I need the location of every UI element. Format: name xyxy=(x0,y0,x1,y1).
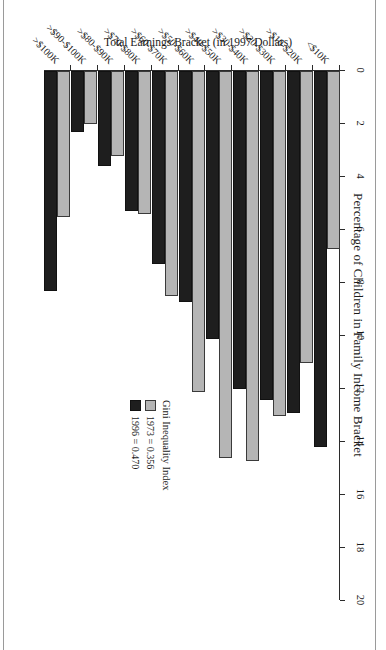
y-axis-tick xyxy=(70,65,71,70)
bar xyxy=(287,71,300,413)
legend-label: 1973 = 0.356 xyxy=(145,416,156,469)
bar-group xyxy=(287,71,313,601)
x-axis-tick-label: 2 xyxy=(355,120,366,125)
x-axis-tick-label: 18 xyxy=(355,542,366,553)
bar xyxy=(273,71,286,416)
bar xyxy=(260,71,273,400)
x-axis-tick-label: 4 xyxy=(355,173,366,178)
plot-area: 02468101214161820<$10K>$10-$20K>$20-$30K… xyxy=(44,70,340,600)
x-axis-tick xyxy=(340,335,345,336)
x-axis-tick-label: 8 xyxy=(355,279,366,284)
bar xyxy=(98,71,111,166)
bar xyxy=(206,71,219,339)
y-axis-tick xyxy=(151,65,152,70)
x-axis-tick-label: 20 xyxy=(355,595,366,606)
bar-chart-figure: Percentage of Children in Family Income … xyxy=(18,10,368,640)
bar xyxy=(165,71,178,296)
x-axis-tick-label: 12 xyxy=(355,383,366,394)
bar xyxy=(111,71,124,156)
bar xyxy=(84,71,97,124)
bar-group xyxy=(233,71,259,601)
x-axis-tick-label: 14 xyxy=(355,436,366,447)
x-axis-tick xyxy=(340,282,345,283)
x-axis-tick-label: 6 xyxy=(355,226,366,231)
bar xyxy=(327,71,340,249)
bar xyxy=(125,71,138,211)
bar-group xyxy=(125,71,151,601)
x-axis-tick xyxy=(340,123,345,124)
y-axis-category-label: <$10K xyxy=(303,38,330,65)
y-axis-tick xyxy=(124,65,125,70)
bar xyxy=(300,71,313,363)
x-axis-tick xyxy=(340,494,345,495)
y-axis-tick xyxy=(204,65,205,70)
bar xyxy=(233,71,246,389)
x-axis-tick-label: 10 xyxy=(355,330,366,341)
y-axis-tick xyxy=(285,65,286,70)
legend-title: Gini Inequality Index xyxy=(161,400,172,490)
bar xyxy=(71,71,84,132)
bar-group xyxy=(98,71,124,601)
x-axis-tick xyxy=(340,229,345,230)
x-axis-tick xyxy=(340,176,345,177)
bar-group xyxy=(206,71,232,601)
bar-group xyxy=(314,71,340,601)
bar xyxy=(44,71,57,291)
x-axis-tick xyxy=(340,441,345,442)
x-axis-tick xyxy=(340,70,345,71)
x-axis-tick-label: 0 xyxy=(355,67,366,72)
legend-swatch xyxy=(130,400,141,411)
bar-group xyxy=(179,71,205,601)
bar xyxy=(246,71,259,461)
bar xyxy=(314,71,327,447)
bar xyxy=(152,71,165,264)
bar-group xyxy=(71,71,97,601)
bar xyxy=(179,71,192,302)
x-axis-tick xyxy=(340,388,345,389)
y-axis-tick xyxy=(97,65,98,70)
x-axis-tick xyxy=(340,547,345,548)
y-axis-tick xyxy=(231,65,232,70)
legend-entry: 1973 = 0.356 xyxy=(145,400,156,469)
legend-label: 1996 = 0.470 xyxy=(130,416,141,469)
bar-group xyxy=(152,71,178,601)
y-axis-tick xyxy=(178,65,179,70)
y-axis-tick xyxy=(258,65,259,70)
bar xyxy=(138,71,151,214)
bar xyxy=(219,71,232,458)
legend-entry: 1996 = 0.470 xyxy=(130,400,141,469)
x-axis-tick-label: 16 xyxy=(355,489,366,500)
y-axis-tick xyxy=(312,65,313,70)
legend-swatch xyxy=(145,400,156,411)
bar-group xyxy=(44,71,70,601)
bar xyxy=(192,71,205,392)
x-axis-tick xyxy=(340,600,345,601)
bar-group xyxy=(260,71,286,601)
figure-page: Percentage of Children in Family Income … xyxy=(0,0,386,650)
rotated-figure-wrapper: Percentage of Children in Family Income … xyxy=(0,0,386,650)
y-axis-tick xyxy=(339,65,340,70)
bar xyxy=(57,71,70,217)
